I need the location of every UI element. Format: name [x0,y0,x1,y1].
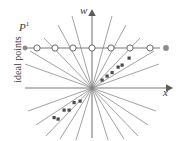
direction-square [128,57,131,60]
pencil-line-8 [92,88,138,136]
direction-square [121,64,124,67]
pencil-line-4 [60,88,92,139]
p1-point-marker [34,45,40,51]
ideal-point-dot-right [163,45,169,51]
p1-point-marker [108,45,114,51]
projective-line-figure: w x P1 ideal points [0,0,177,141]
direction-square [57,118,60,121]
pencil-line-10 [92,88,156,111]
direction-square [106,75,109,78]
direction-square [73,101,76,104]
ideal-point-dot-left [23,46,28,51]
pencil-line-14 [58,25,92,88]
direction-square [68,109,71,112]
pencil-line-1 [28,88,92,111]
pencil-line-2 [36,88,92,125]
projective-line-exponent: 1 [26,20,30,28]
p1-point-marker [127,45,133,51]
w-axis-arrow-icon [88,9,95,16]
p1-point-marker [70,45,76,51]
pencil-line-17 [92,25,126,88]
direction-square [63,109,66,112]
direction-square [111,71,114,74]
pencil-line-7 [92,88,124,139]
direction-square [53,116,56,119]
x-axis-label: x [163,86,168,98]
direction-square [101,79,104,82]
pencil-line-9 [92,88,148,125]
p1-point-marker [147,45,153,51]
p1-point-marker [89,45,95,51]
pencil-line-3 [46,88,92,136]
direction-square [79,100,82,103]
ideal-points-label: ideal points [12,23,23,97]
direction-square [117,66,120,69]
w-axis-label: w [80,4,87,16]
p1-point-marker [52,45,58,51]
